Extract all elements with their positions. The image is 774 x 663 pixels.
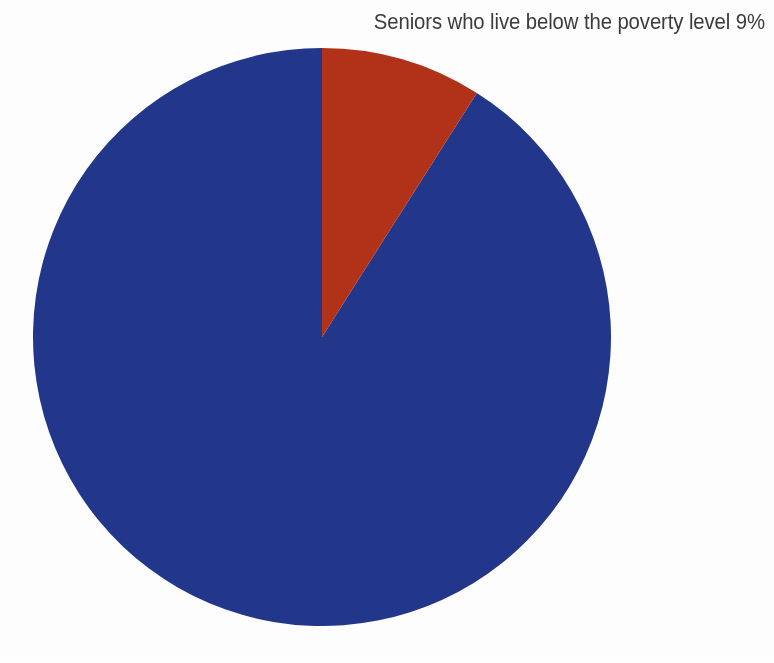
pie-chart-figure: Seniors who live below the poverty level… — [0, 0, 774, 663]
slice-annotation-label: Seniors who live below the poverty level… — [374, 11, 765, 34]
pie-chart-svg — [0, 0, 774, 663]
pie-chart-canvas — [0, 0, 774, 663]
pie-slice-all-other-seniors[interactable] — [33, 48, 611, 626]
